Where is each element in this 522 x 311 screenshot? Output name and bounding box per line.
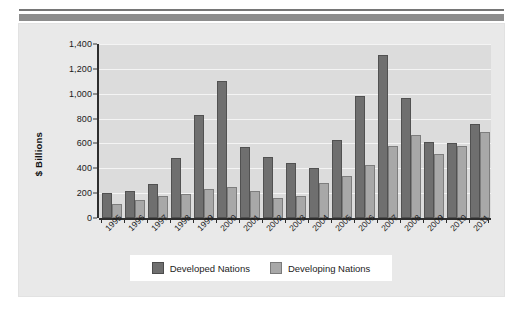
y-axis-tick-mark [93,68,97,69]
x-axis-tick-mark [469,218,470,223]
bar-developed-2006[interactable] [355,96,365,218]
y-axis-tick-mark [93,93,97,94]
header-band [19,14,504,21]
y-axis-tick-mark [93,143,97,144]
x-axis-tick-mark [377,218,378,223]
bar-developed-2009[interactable] [424,142,434,218]
bar-developed-2002[interactable] [263,157,273,218]
bar-group [378,44,398,218]
y-axis-tick-mark [93,168,97,169]
bar-developed-1995[interactable] [102,193,112,218]
x-axis-tick-mark [308,218,309,223]
x-axis-tick-mark [285,218,286,223]
header-rule [19,9,504,11]
x-axis-tick-mark [101,218,102,223]
bar-developing-2006[interactable] [365,165,375,218]
bar-group [470,44,490,218]
bar-developed-2000[interactable] [217,81,227,218]
plot-inner: 02004006008001,0001,2001,400199519961997… [97,44,491,218]
bar-developing-2005[interactable] [342,176,352,218]
bar-group [217,44,237,218]
bar-developed-2003[interactable] [286,163,296,218]
bar-developed-1999[interactable] [194,115,204,218]
x-axis-tick-mark [239,218,240,223]
bar-group [194,44,214,218]
bar-group [309,44,329,218]
bar-group [355,44,375,218]
bar-group [286,44,306,218]
legend-swatch-developed-icon [152,262,164,274]
bar-developed-2011[interactable] [470,124,480,218]
bar-group [102,44,122,218]
chart-legend: Developed Nations Developing Nations [130,255,392,281]
x-axis-tick-mark [423,218,424,223]
bar-developing-2008[interactable] [411,135,421,218]
x-axis-tick-mark [170,218,171,223]
bar-developing-2011[interactable] [480,132,490,218]
x-axis-tick-mark [400,218,401,223]
bar-developing-2007[interactable] [388,146,398,218]
bar-developed-1998[interactable] [171,158,181,218]
x-axis-tick-mark [193,218,194,223]
bar-developed-2010[interactable] [447,143,457,218]
bar-developed-2004[interactable] [309,168,319,218]
y-axis-tick-mark [93,218,97,219]
bar-developed-1996[interactable] [125,191,135,218]
bar-group [125,44,145,218]
bar-developed-2008[interactable] [401,98,411,218]
x-axis-tick-mark [488,218,489,223]
bar-developing-2009[interactable] [434,154,444,218]
y-axis-tick-mark [93,193,97,194]
legend-label-developed: Developed Nations [170,263,250,274]
bar-group [447,44,467,218]
bar-developing-2010[interactable] [457,146,467,218]
bar-developed-2007[interactable] [378,55,388,218]
y-axis-label: $ Billions [33,132,44,176]
legend-swatch-developing-icon [270,262,282,274]
x-axis-tick-mark [216,218,217,223]
x-axis-tick-mark [124,218,125,223]
bar-group [240,44,260,218]
x-axis-tick-mark [446,218,447,223]
x-axis-tick-mark [147,218,148,223]
bar-group [148,44,168,218]
legend-item-developing: Developing Nations [270,262,370,274]
chart-figure: $ Billions 02004006008001,0001,2001,4001… [0,0,522,311]
x-axis-tick-mark [262,218,263,223]
legend-label-developing: Developing Nations [288,263,370,274]
y-axis-tick-mark [93,118,97,119]
bar-group [263,44,283,218]
bar-developed-2001[interactable] [240,147,250,218]
y-axis-tick-mark [93,44,97,45]
bar-group [171,44,191,218]
x-axis-tick-mark [354,218,355,223]
legend-item-developed: Developed Nations [152,262,250,274]
chart-panel: $ Billions 02004006008001,0001,2001,4001… [19,24,504,296]
plot-area: 02004006008001,0001,2001,400199519961997… [97,44,489,238]
bar-developed-1997[interactable] [148,184,158,218]
x-axis-tick-mark [331,218,332,223]
bar-developed-2005[interactable] [332,140,342,218]
bar-group [332,44,352,218]
bar-group [424,44,444,218]
bar-group [401,44,421,218]
